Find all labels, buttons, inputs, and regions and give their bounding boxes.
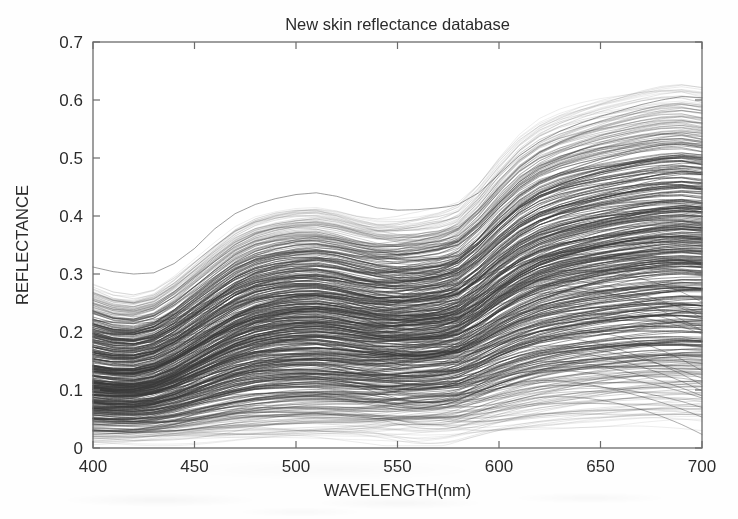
y-tick-label: 0.3	[59, 265, 83, 284]
x-tick-label: 500	[282, 457, 310, 476]
y-axis-label: REFLECTANCE	[13, 185, 31, 305]
x-tick-label: 400	[79, 457, 107, 476]
x-tick-label: 450	[180, 457, 208, 476]
chart-title: New skin reflectance database	[285, 15, 510, 33]
x-tick-label: 650	[586, 457, 614, 476]
y-tick-label: 0	[74, 439, 83, 458]
y-tick-label: 0.4	[59, 207, 83, 226]
y-axis-tick-labels: 00.10.20.30.40.50.60.7	[59, 33, 83, 458]
y-tick-label: 0.5	[59, 149, 83, 168]
x-tick-label: 700	[688, 457, 716, 476]
reflectance-chart: 400450500550600650700 00.10.20.30.40.50.…	[0, 0, 738, 519]
y-tick-label: 0.7	[59, 33, 83, 52]
y-tick-label: 0.1	[59, 381, 83, 400]
x-axis-tick-labels: 400450500550600650700	[79, 457, 716, 476]
figure-panel: 400450500550600650700 00.10.20.30.40.50.…	[0, 0, 738, 519]
x-tick-label: 600	[485, 457, 513, 476]
y-tick-label: 0.2	[59, 323, 83, 342]
y-tick-label: 0.6	[59, 91, 83, 110]
x-axis-label: WAVELENGTH(nm)	[324, 481, 472, 499]
x-tick-label: 550	[383, 457, 411, 476]
